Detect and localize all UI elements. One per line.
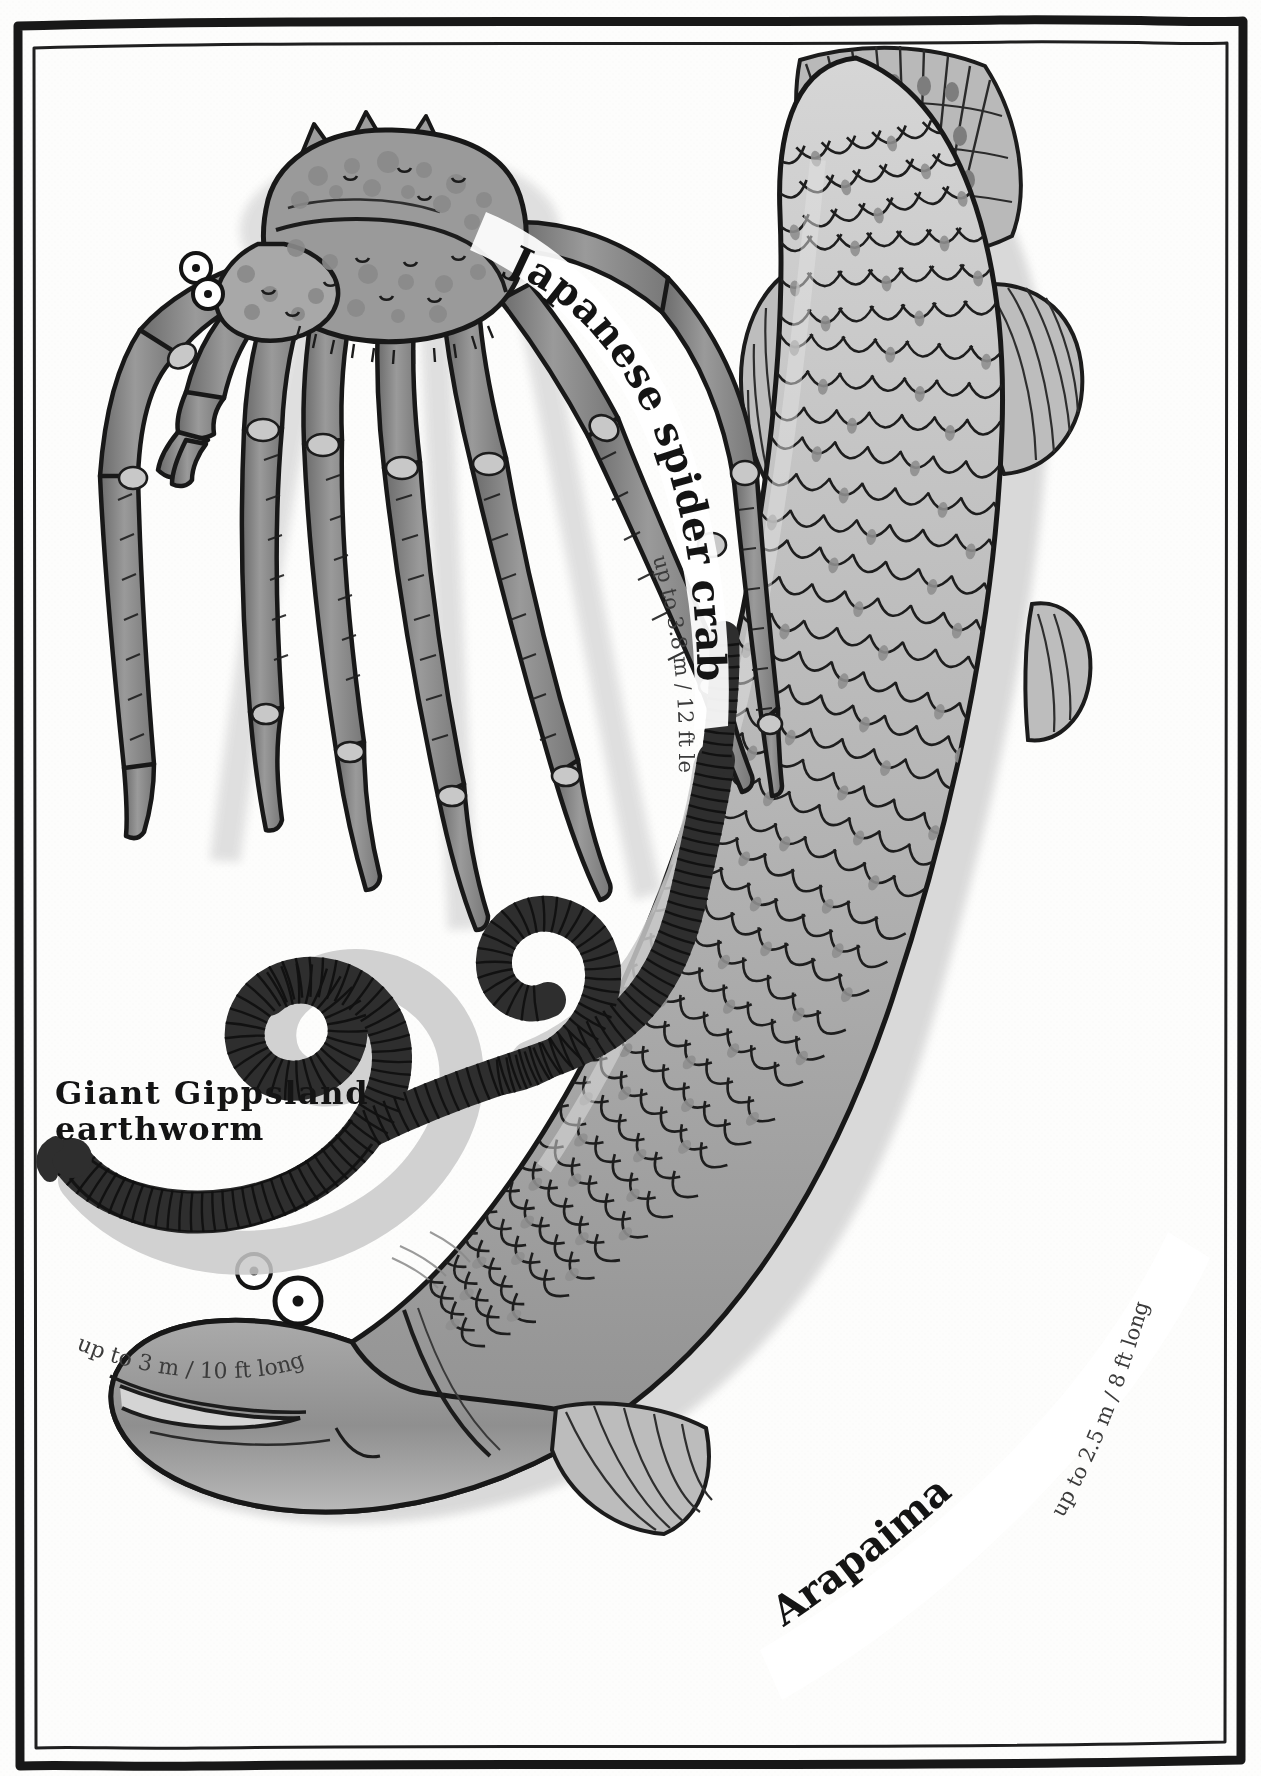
worm-segment	[328, 1031, 368, 1032]
earthworm-name-label: Giant Gippsland earthworm	[55, 1075, 369, 1147]
earthworm-name-line2: earthworm	[55, 1111, 369, 1147]
earthworm-name-line1: Giant Gippsland	[55, 1075, 369, 1111]
book-page: The giants 76	[0, 0, 1261, 1776]
illustration-canvas: Japanese spider crab up to 3.8 m / 12 ft…	[0, 0, 1261, 1776]
worm-segment	[476, 962, 512, 963]
